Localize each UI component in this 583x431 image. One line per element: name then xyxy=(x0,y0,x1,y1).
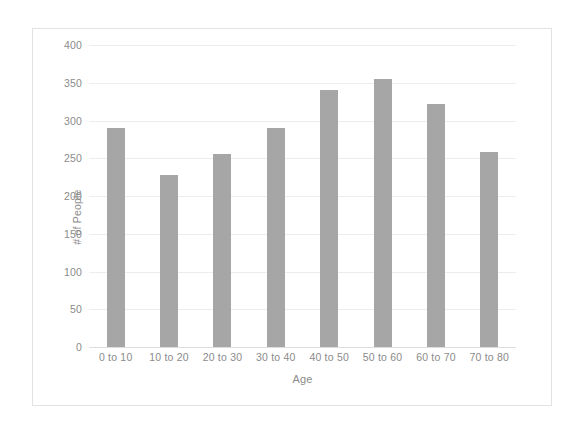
x-tick-label: 40 to 50 xyxy=(303,351,356,363)
bar-0-to-10[interactable] xyxy=(107,128,125,347)
x-tick-label: 50 to 60 xyxy=(356,351,409,363)
bar-slot xyxy=(463,45,516,347)
bar-slot xyxy=(89,45,142,347)
chart-frame: # of People 050100150200250300350400 0 t… xyxy=(32,28,552,406)
bar-60-to-70[interactable] xyxy=(427,104,445,347)
bars-group xyxy=(89,45,516,347)
bar-slot xyxy=(249,45,302,347)
x-tick-label: 0 to 10 xyxy=(89,351,142,363)
x-tick-label: 70 to 80 xyxy=(463,351,516,363)
bar-40-to-50[interactable] xyxy=(320,90,338,347)
bar-10-to-20[interactable] xyxy=(160,175,178,347)
plot-area: 050100150200250300350400 xyxy=(89,45,516,347)
bar-30-to-40[interactable] xyxy=(267,128,285,347)
y-tick-label: 350 xyxy=(64,77,82,89)
gridline-0: 0 xyxy=(89,347,516,348)
y-tick-label: 200 xyxy=(64,190,82,202)
bar-slot xyxy=(196,45,249,347)
x-axis-tick-labels: 0 to 1010 to 2020 to 3030 to 4040 to 505… xyxy=(89,351,516,363)
y-tick-label: 150 xyxy=(64,228,82,240)
y-tick-label: 250 xyxy=(64,152,82,164)
x-axis-title: Age xyxy=(89,373,516,385)
bar-20-to-30[interactable] xyxy=(213,154,231,347)
bar-slot xyxy=(303,45,356,347)
y-tick-label: 100 xyxy=(64,266,82,278)
bar-70-to-80[interactable] xyxy=(480,152,498,347)
bar-50-to-60[interactable] xyxy=(374,79,392,347)
y-tick-label: 300 xyxy=(64,115,82,127)
y-tick-label: 0 xyxy=(76,341,82,353)
bar-slot xyxy=(356,45,409,347)
bar-slot xyxy=(409,45,462,347)
y-tick-label: 400 xyxy=(64,39,82,51)
x-tick-label: 30 to 40 xyxy=(249,351,302,363)
bar-slot xyxy=(142,45,195,347)
x-tick-label: 20 to 30 xyxy=(196,351,249,363)
x-tick-label: 60 to 70 xyxy=(409,351,462,363)
x-tick-label: 10 to 20 xyxy=(142,351,195,363)
y-tick-label: 50 xyxy=(70,303,82,315)
